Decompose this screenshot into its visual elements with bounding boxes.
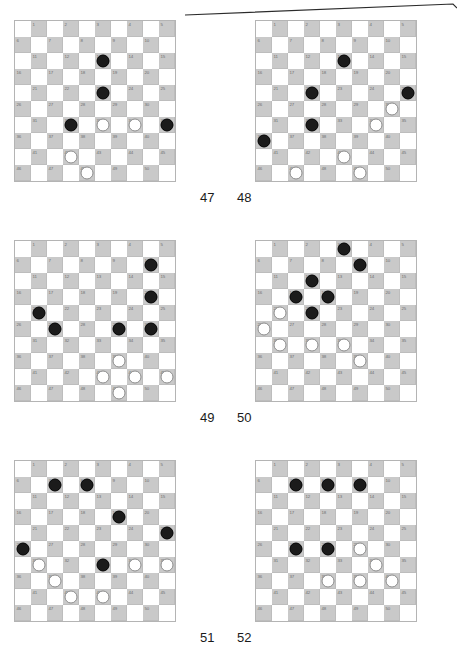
- square-4[interactable]: 4: [127, 461, 143, 477]
- square-30[interactable]: 30: [143, 101, 159, 117]
- square-29[interactable]: 29: [352, 541, 368, 557]
- square-48[interactable]: 48: [320, 165, 336, 181]
- square-23[interactable]: 23: [95, 525, 111, 541]
- square-5[interactable]: 5: [159, 461, 175, 477]
- square-1[interactable]: 1: [31, 21, 47, 37]
- square-48[interactable]: 48: [79, 605, 95, 621]
- square-11[interactable]: 11: [31, 53, 47, 69]
- square-7[interactable]: 7: [47, 37, 63, 53]
- square-42[interactable]: 42: [304, 589, 320, 605]
- white-piece-37[interactable]: [48, 574, 61, 587]
- square-36[interactable]: 36: [256, 573, 272, 589]
- square-37[interactable]: 37: [47, 133, 63, 149]
- square-32[interactable]: 32: [304, 337, 320, 353]
- square-16[interactable]: 16: [256, 289, 272, 305]
- board-47[interactable]: 1234567891011121314151617181920212223242…: [14, 20, 176, 182]
- square-19[interactable]: 19: [111, 69, 127, 85]
- square-39[interactable]: 39: [352, 353, 368, 369]
- square-32[interactable]: 32: [63, 557, 79, 573]
- square-8[interactable]: 8: [79, 37, 95, 53]
- square-7[interactable]: 7: [288, 257, 304, 273]
- square-5[interactable]: 5: [159, 241, 175, 257]
- square-22[interactable]: 22: [304, 305, 320, 321]
- square-6[interactable]: 6: [15, 477, 31, 493]
- square-28[interactable]: 28: [320, 321, 336, 337]
- white-piece-43[interactable]: [337, 150, 350, 163]
- square-40[interactable]: 40: [143, 353, 159, 369]
- square-17[interactable]: 17: [288, 289, 304, 305]
- square-23[interactable]: 23: [336, 525, 352, 541]
- square-26[interactable]: 26: [256, 541, 272, 557]
- square-28[interactable]: 28: [79, 321, 95, 337]
- black-piece-8[interactable]: [321, 478, 334, 491]
- square-42[interactable]: 42: [63, 369, 79, 385]
- square-9[interactable]: 9: [111, 37, 127, 53]
- square-18[interactable]: 18: [320, 509, 336, 525]
- square-50[interactable]: 50: [384, 385, 400, 401]
- square-3[interactable]: 3: [336, 241, 352, 257]
- square-27[interactable]: 27: [288, 101, 304, 117]
- square-17[interactable]: 17: [47, 69, 63, 85]
- square-31[interactable]: 31: [31, 337, 47, 353]
- square-34[interactable]: 34: [368, 117, 384, 133]
- square-45[interactable]: 45: [400, 589, 416, 605]
- square-13[interactable]: 13: [95, 493, 111, 509]
- square-47[interactable]: 47: [288, 605, 304, 621]
- square-39[interactable]: 39: [111, 573, 127, 589]
- square-50[interactable]: 50: [384, 605, 400, 621]
- square-44[interactable]: 44: [368, 149, 384, 165]
- board-51[interactable]: 1234567891011121314151617181920212223242…: [14, 460, 176, 622]
- black-piece-13[interactable]: [96, 54, 109, 67]
- square-31[interactable]: 31: [272, 557, 288, 573]
- square-35[interactable]: 35: [400, 117, 416, 133]
- square-48[interactable]: 48: [320, 385, 336, 401]
- square-18[interactable]: 18: [79, 69, 95, 85]
- square-19[interactable]: 19: [352, 69, 368, 85]
- square-10[interactable]: 10: [143, 477, 159, 493]
- square-23[interactable]: 23: [95, 305, 111, 321]
- square-21[interactable]: 21: [272, 85, 288, 101]
- white-piece-31[interactable]: [32, 558, 45, 571]
- square-47[interactable]: 47: [288, 165, 304, 181]
- square-15[interactable]: 15: [159, 273, 175, 289]
- square-18[interactable]: 18: [79, 509, 95, 525]
- white-piece-49[interactable]: [353, 166, 366, 179]
- square-30[interactable]: 30: [384, 541, 400, 557]
- square-14[interactable]: 14: [127, 493, 143, 509]
- square-36[interactable]: 36: [15, 133, 31, 149]
- square-15[interactable]: 15: [400, 273, 416, 289]
- square-36[interactable]: 36: [15, 353, 31, 369]
- square-31[interactable]: 31: [272, 117, 288, 133]
- square-33[interactable]: 33: [95, 117, 111, 133]
- square-30[interactable]: 30: [384, 321, 400, 337]
- square-33[interactable]: 33: [95, 557, 111, 573]
- square-46[interactable]: 46: [256, 385, 272, 401]
- square-10[interactable]: 10: [384, 37, 400, 53]
- square-21[interactable]: 21: [31, 85, 47, 101]
- square-11[interactable]: 11: [272, 53, 288, 69]
- square-49[interactable]: 49: [352, 605, 368, 621]
- square-31[interactable]: 31: [272, 337, 288, 353]
- square-20[interactable]: 20: [143, 509, 159, 525]
- square-8[interactable]: 8: [320, 477, 336, 493]
- black-piece-32[interactable]: [64, 118, 77, 131]
- square-34[interactable]: 34: [127, 337, 143, 353]
- square-13[interactable]: 13: [336, 493, 352, 509]
- square-23[interactable]: 23: [336, 85, 352, 101]
- black-piece-3[interactable]: [337, 242, 350, 255]
- square-12[interactable]: 12: [304, 273, 320, 289]
- square-4[interactable]: 4: [368, 241, 384, 257]
- square-9[interactable]: 9: [352, 257, 368, 273]
- square-4[interactable]: 4: [368, 461, 384, 477]
- square-13[interactable]: 13: [336, 53, 352, 69]
- square-40[interactable]: 40: [143, 133, 159, 149]
- black-piece-30[interactable]: [144, 322, 157, 335]
- square-13[interactable]: 13: [336, 273, 352, 289]
- square-45[interactable]: 45: [400, 149, 416, 165]
- square-26[interactable]: 26: [15, 541, 31, 557]
- square-13[interactable]: 13: [95, 273, 111, 289]
- square-18[interactable]: 18: [320, 289, 336, 305]
- black-piece-22[interactable]: [305, 86, 318, 99]
- white-piece-42[interactable]: [64, 590, 77, 603]
- white-piece-43[interactable]: [96, 370, 109, 383]
